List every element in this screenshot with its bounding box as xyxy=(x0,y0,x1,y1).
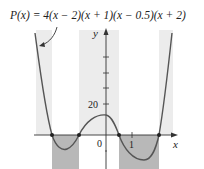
chart-title: P(x) = 4(x − 2)(x + 1)(x − 0.5)(x + 2) xyxy=(9,9,186,22)
root-dot xyxy=(157,133,161,137)
positive-band-middle xyxy=(79,30,119,135)
polynomial-chart: P(x) = 4(x − 2)(x + 1)(x − 0.5)(x + 2) y… xyxy=(0,0,204,169)
origin-label: 0 xyxy=(97,138,102,149)
root-dot xyxy=(50,133,54,137)
y-axis-label: y xyxy=(92,27,98,39)
y-tick-label-20: 20 xyxy=(88,99,98,110)
x-axis-label: x xyxy=(172,138,178,150)
x-tick-label-1: 1 xyxy=(129,139,134,150)
x-axis-arrow xyxy=(171,133,178,138)
negative-band-left xyxy=(52,135,79,169)
root-dot xyxy=(77,133,81,137)
root-dot xyxy=(117,133,121,137)
